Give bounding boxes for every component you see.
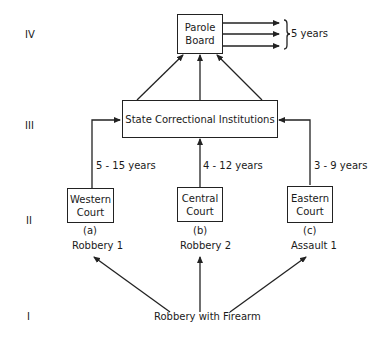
institutions-label: State Correctional Institutions (125, 113, 274, 126)
eastern-marker: (c) (303, 225, 316, 237)
eastern-charge: Assault 1 (291, 240, 337, 252)
central-charge: Robbery 2 (180, 240, 231, 252)
parole-board-line2: Board (185, 34, 214, 47)
western-court-box: Western Court (67, 188, 114, 223)
origin-offense-label: Robbery with Firearm (154, 311, 261, 323)
level-ii-label: II (26, 215, 32, 226)
eastern-court-box: Eastern Court (287, 186, 333, 223)
central-sentence-label: 4 - 12 years (203, 160, 263, 172)
central-court-box: Central Court (177, 187, 223, 222)
parole-board-box: Parole Board (177, 14, 223, 54)
eastern-court-line1: Eastern (291, 192, 329, 205)
eastern-sentence-label: 3 - 9 years (314, 160, 367, 172)
western-sentence-label: 5 - 15 years (96, 160, 156, 172)
level-iii-label: III (25, 120, 34, 131)
level-iv-label: IV (25, 29, 35, 40)
state-correctional-institutions-box: State Correctional Institutions (122, 100, 278, 138)
eastern-court-line2: Court (296, 205, 323, 218)
parole-board-line1: Parole (185, 21, 216, 34)
level-i-label: I (27, 311, 30, 322)
central-court-line1: Central (182, 192, 218, 205)
central-court-line2: Court (186, 205, 213, 218)
western-marker: (a) (83, 225, 97, 237)
central-marker: (b) (193, 225, 207, 237)
western-charge: Robbery 1 (72, 240, 123, 252)
western-court-line1: Western (70, 193, 111, 206)
parole-duration-label: 5 years (291, 28, 328, 40)
western-court-line2: Court (77, 206, 104, 219)
